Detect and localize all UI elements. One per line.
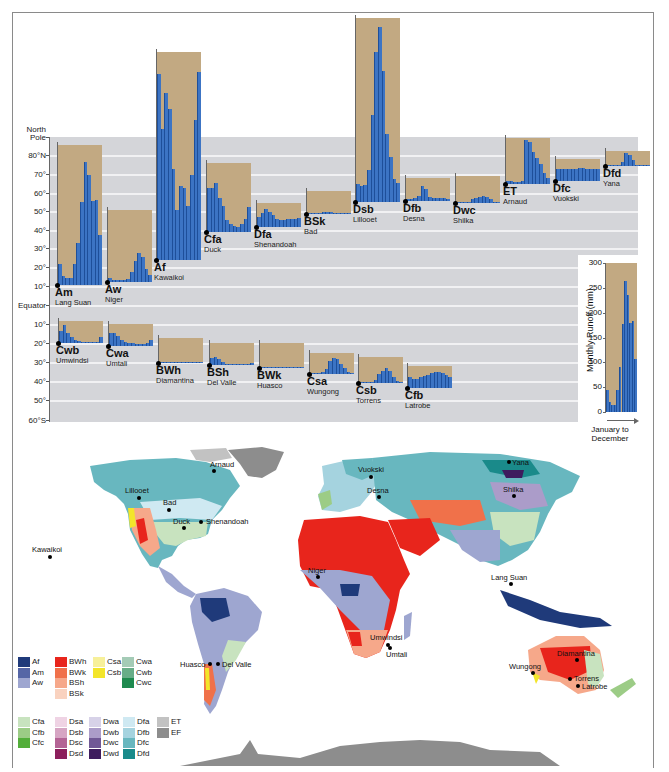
bar-group <box>356 18 400 202</box>
runoff-bar <box>300 367 304 368</box>
runoff-bar <box>448 377 452 388</box>
latitude-label: Pole <box>0 133 46 142</box>
legend-swatch-cwb <box>122 668 134 678</box>
legend-label: Am <box>32 668 44 678</box>
latitude-label: 50° <box>0 396 46 405</box>
place-label: Kawaikoi <box>32 545 62 554</box>
climate-code-label: Dfc <box>553 183 571 194</box>
legend-label: Dsc <box>69 738 83 748</box>
place-label: Niger <box>308 566 326 575</box>
bar-group <box>359 357 403 383</box>
latitude-label: 60°S <box>0 416 46 425</box>
legend-swatch-bwk <box>55 668 67 678</box>
station-name-label: Kawaikoi <box>154 273 184 282</box>
legend-swatch-dfa <box>123 717 135 727</box>
station-name-label: Bad <box>304 227 317 236</box>
scale-tick-label: 150 <box>582 334 602 342</box>
runoff-bar <box>347 213 351 214</box>
legend-label: Dsa <box>69 717 83 727</box>
station-name-label: Huasco <box>257 381 282 390</box>
runoff-chart-csb: CsbTorrens <box>359 357 403 383</box>
legend-swatch-dfb <box>123 728 135 738</box>
place-marker-dot <box>576 684 580 688</box>
place-label: Desna <box>367 486 389 495</box>
runoff-chart-af: AfKawaikoi <box>157 52 201 260</box>
legend-swatch-csa <box>93 657 105 667</box>
climate-code-label: Am <box>55 287 73 298</box>
scale-tick <box>603 362 606 363</box>
scale-caption-2: December <box>585 434 635 443</box>
scale-tick <box>603 313 606 314</box>
latitude-label: 50° <box>0 207 46 216</box>
runoff-chart-dfc: DfcVuokski <box>556 159 600 181</box>
latitude-label: Equator <box>0 301 46 310</box>
legend-swatch-aw <box>18 678 30 688</box>
legend-label: Cfa <box>32 717 44 727</box>
climate-code-label: Csb <box>356 385 377 396</box>
legend-swatch-af <box>18 657 30 667</box>
station-name-label: Umwindsi <box>56 356 89 365</box>
runoff-bar <box>99 337 103 343</box>
place-label: Umwindsi <box>370 633 403 642</box>
legend-label: Dwa <box>103 717 119 727</box>
latitude-label: 80°N <box>0 151 46 160</box>
latitude-label: 30° <box>0 358 46 367</box>
place-marker-dot <box>509 582 513 586</box>
bar-group <box>456 176 500 203</box>
station-name-label: Yana <box>603 179 620 188</box>
place-marker-dot <box>216 662 220 666</box>
bar-group <box>109 324 153 346</box>
climate-code-label: Cfa <box>204 234 222 245</box>
climate-code-label: Dfb <box>403 203 421 214</box>
runoff-chart-cfb: CfbLatrobe <box>408 366 452 388</box>
runoff-bar <box>546 178 550 184</box>
place-marker-dot <box>199 520 203 524</box>
place-label: Diamantina <box>557 649 595 658</box>
station-name-label: Niger <box>105 295 123 304</box>
legend-swatch-cfc <box>18 738 30 748</box>
climate-code-label: BSh <box>207 367 229 378</box>
runoff-bar <box>148 275 152 282</box>
legend-label: Dfc <box>137 738 149 748</box>
runoff-chart-dfb: DfbDesna <box>406 178 450 201</box>
legend-swatch-et <box>157 717 169 727</box>
scale-tick <box>603 288 606 289</box>
runoff-chart-cfa: CfaDuck <box>207 163 251 232</box>
scale-caption-1: January to <box>585 425 635 434</box>
place-marker-dot <box>377 495 381 499</box>
station-name-label: Arnaud <box>503 197 527 206</box>
legend-label: Cfc <box>32 738 44 748</box>
bar-group <box>58 145 102 285</box>
runoff-chart-dfd: DfdYana <box>606 151 650 166</box>
place-marker-dot <box>137 496 141 500</box>
legend-swatch-am <box>18 668 30 678</box>
legend-label: Dfa <box>137 717 149 727</box>
latitude-label: 60° <box>0 189 46 198</box>
place-label: Duck <box>173 517 190 526</box>
legend-label: Csa <box>107 657 121 667</box>
latitude-label: 20° <box>0 263 46 272</box>
legend-label: ET <box>171 717 181 727</box>
runoff-bar <box>149 340 153 346</box>
climate-code-label: Dfa <box>254 229 272 240</box>
legend-swatch-dfc <box>123 738 135 748</box>
legend-label: Dwd <box>103 749 119 759</box>
station-name-label: Lillooet <box>353 215 377 224</box>
runoff-bar <box>396 183 400 202</box>
runoff-bar <box>496 202 500 203</box>
runoff-chart-cwa: CwaUmtali <box>109 324 153 346</box>
latitude-label: 20° <box>0 339 46 348</box>
legend-label: Dfb <box>137 728 149 738</box>
legend-label: Dsd <box>69 749 83 759</box>
bar-group <box>108 210 152 282</box>
runoff-chart-bwk: BWkHuasco <box>260 343 304 368</box>
legend-swatch-dwc <box>89 738 101 748</box>
legend-swatch-dsb <box>55 728 67 738</box>
place-label: Shenandoah <box>206 517 249 526</box>
place-label: Lang Suan <box>491 573 527 582</box>
station-name-label: Shilka <box>453 216 473 225</box>
place-marker-dot <box>512 494 516 498</box>
runoff-chart-am: AmLang Suan <box>58 145 102 285</box>
runoff-bar <box>199 362 203 363</box>
bar-group <box>210 343 254 365</box>
